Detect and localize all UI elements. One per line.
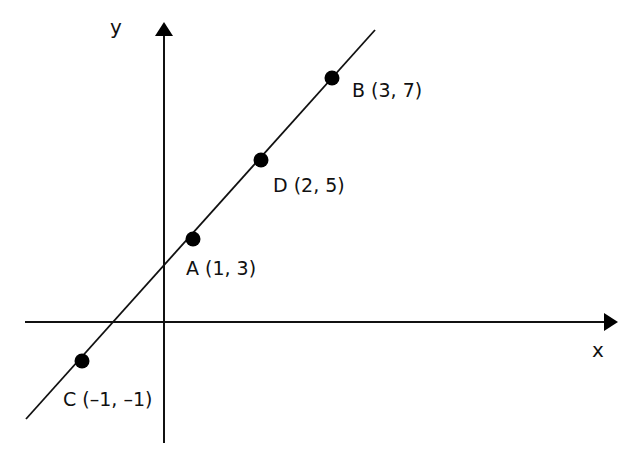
point-a <box>186 232 201 247</box>
point-c <box>75 354 90 369</box>
x-axis-label: x <box>592 340 604 360</box>
point-d-label: D (2, 5) <box>273 176 345 195</box>
point-d <box>254 153 269 168</box>
y-axis-label: y <box>110 17 122 37</box>
point-b <box>325 71 340 86</box>
x-axis-arrow-icon <box>604 313 618 331</box>
y-axis-arrow-icon <box>155 22 173 36</box>
point-b-label: B (3, 7) <box>352 81 422 100</box>
point-a-label: A (1, 3) <box>186 259 256 278</box>
coordinate-diagram: y x B (3, 7) D (2, 5) A (1, 3) C (–1, –1… <box>0 0 624 460</box>
point-c-label: C (–1, –1) <box>63 390 152 409</box>
